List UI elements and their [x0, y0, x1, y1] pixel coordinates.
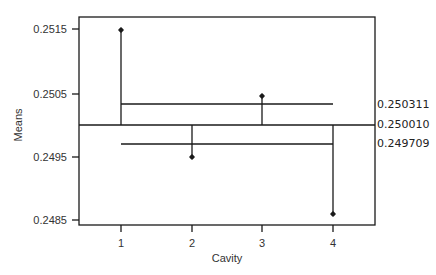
- x-axis-title: Cavity: [212, 252, 243, 264]
- udl-label: 0.250311: [377, 98, 430, 111]
- x-axis: [121, 225, 333, 232]
- ldl-label: 0.249709: [377, 137, 430, 150]
- y-tick-label: 0.2495: [33, 151, 67, 163]
- point-cavity-2: [189, 154, 195, 160]
- point-cavity-4: [330, 211, 336, 217]
- x-tick-label: 4: [330, 237, 336, 249]
- y-tick-label: 0.2505: [33, 88, 67, 100]
- x-tick-label: 1: [118, 237, 124, 249]
- point-cavity-1: [118, 27, 124, 33]
- center-label: 0.250010: [377, 118, 430, 131]
- x-tick-label: 3: [259, 237, 265, 249]
- y-axis-title: Means: [12, 108, 24, 142]
- y-tick-label: 0.2485: [33, 214, 67, 226]
- anom-chart: 0.2515 0.2505 0.2495 0.2485 Means 1 2 3 …: [0, 0, 436, 275]
- x-tick-labels: 1 2 3 4: [118, 237, 336, 249]
- y-tick-labels: 0.2515 0.2505 0.2495 0.2485: [33, 23, 67, 226]
- y-axis: [72, 29, 79, 220]
- plot-area-frame: [79, 17, 375, 225]
- mean-points: [118, 27, 336, 217]
- mean-stems: [121, 30, 333, 214]
- point-cavity-3: [259, 93, 265, 99]
- x-tick-label: 2: [189, 237, 195, 249]
- y-tick-label: 0.2515: [33, 23, 67, 35]
